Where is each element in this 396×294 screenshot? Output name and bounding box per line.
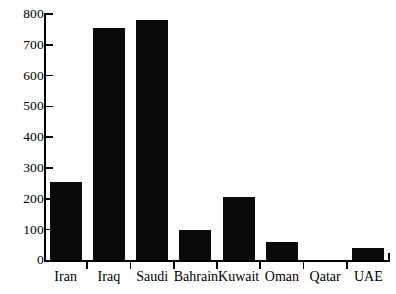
y-axis-tick	[44, 75, 53, 77]
y-axis-tick	[44, 167, 53, 169]
y-axis-tick-label: 600	[4, 69, 44, 83]
y-axis-tick-label: 800	[4, 7, 44, 21]
x-axis-tick	[259, 262, 261, 269]
x-axis-tick	[173, 262, 175, 269]
x-axis-tick	[346, 262, 348, 269]
bar-bahrain	[179, 230, 211, 261]
bar-oman	[266, 242, 298, 260]
y-axis-tick-label: 300	[4, 161, 44, 175]
x-axis-tick	[86, 262, 88, 269]
y-axis-tick-label: 200	[4, 192, 44, 206]
x-axis-tick	[303, 262, 305, 269]
y-axis-tick-label: 0	[4, 253, 44, 267]
bar-uae	[352, 248, 384, 260]
x-axis-label-oman: Oman	[260, 270, 303, 284]
x-axis-tick	[216, 262, 218, 269]
bar-kuwait	[223, 197, 255, 260]
x-axis-label-bahrain: Bahrain	[174, 270, 217, 284]
y-axis-line	[44, 14, 46, 262]
bar-iran	[50, 182, 82, 261]
x-axis-label-kuwait: Kuwait	[217, 270, 260, 284]
bar-iraq	[93, 28, 125, 261]
y-axis-tick-label: 500	[4, 99, 44, 113]
y-axis-tick	[44, 44, 53, 46]
x-axis-tick	[130, 262, 132, 269]
y-axis-tick-label: 400	[4, 130, 44, 144]
y-axis-tick	[44, 106, 53, 108]
y-axis-tick	[44, 136, 53, 138]
x-axis-end-cap	[388, 253, 390, 262]
bar-chart: 0100200300400500600700800 IranIraqSaudiB…	[0, 0, 396, 294]
x-axis-label-qatar: Qatar	[304, 270, 347, 284]
bar-saudi	[136, 20, 168, 260]
y-axis-tick	[44, 13, 53, 15]
x-axis-label-iran: Iran	[44, 270, 87, 284]
y-axis-tick-label: 100	[4, 223, 44, 237]
x-axis-label-uae: UAE	[347, 270, 390, 284]
y-axis-tick-label: 700	[4, 38, 44, 52]
x-axis-label-iraq: Iraq	[87, 270, 130, 284]
x-axis-label-saudi: Saudi	[131, 270, 174, 284]
